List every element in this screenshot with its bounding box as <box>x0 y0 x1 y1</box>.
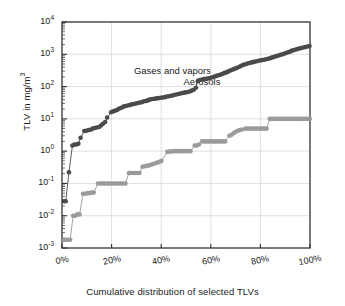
chart-figure: TLV in mg/m3 Cumulative distribution of … <box>0 0 345 306</box>
series-gases-and-vapors <box>62 44 312 204</box>
plot-area <box>0 0 345 306</box>
series-aerosols <box>62 117 312 243</box>
